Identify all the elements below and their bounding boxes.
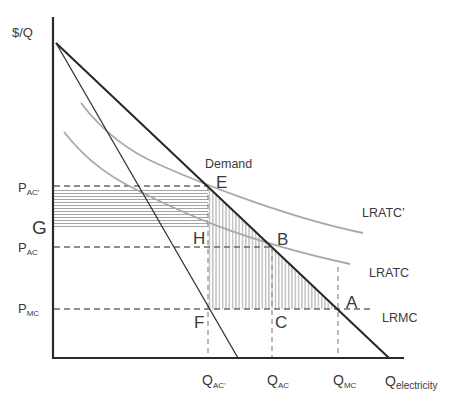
lratc-prime-label: LRATC’: [362, 206, 405, 220]
point-f-label: F: [194, 313, 204, 332]
y-axis-label: $/Q: [12, 25, 33, 40]
point-e-label: E: [216, 173, 227, 192]
economics-diagram: $/Q Qelectricity PAC’ G PAC PMC QAC’ QAC…: [0, 0, 457, 408]
horizontal-hatch-area-g: [54, 188, 208, 227]
point-a-label: A: [346, 293, 358, 312]
point-c-label: C: [275, 313, 287, 332]
lrmc-label: LRMC: [382, 311, 417, 325]
g-label: G: [32, 217, 47, 238]
lratc-label: LRATC: [369, 266, 409, 280]
point-b-label: B: [277, 230, 288, 249]
demand-label: Demand: [205, 157, 252, 171]
point-h-label: H: [193, 229, 205, 248]
